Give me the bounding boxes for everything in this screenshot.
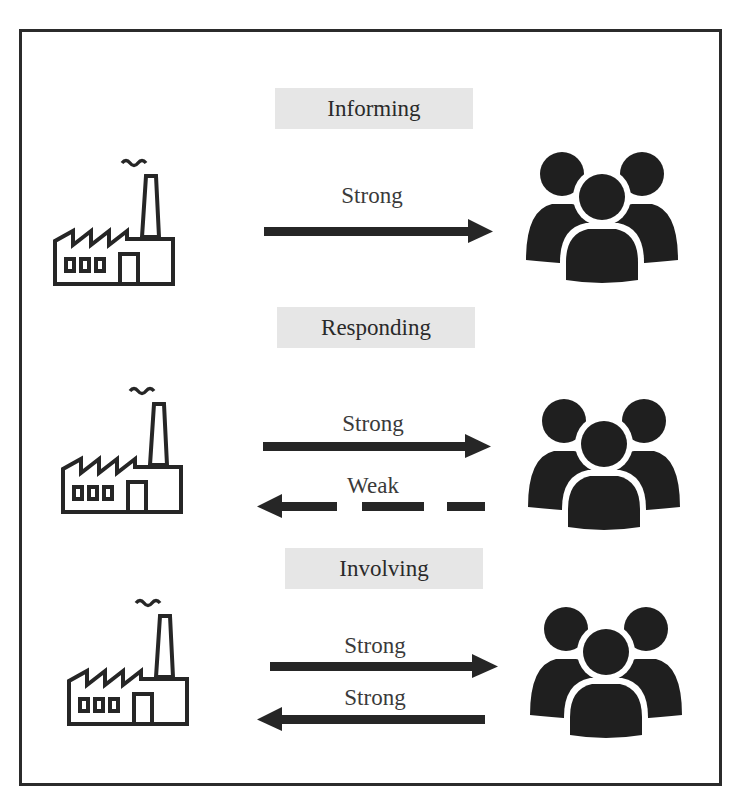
factory-icon — [53, 157, 177, 287]
arrow-right-solid — [263, 434, 493, 458]
arrow-right-solid — [264, 219, 494, 243]
factory-icon — [61, 385, 185, 515]
factory-icon — [67, 597, 191, 727]
arrow-left-solid — [257, 707, 487, 731]
section-title-informing: Informing — [275, 88, 473, 129]
section-title-involving: Involving — [285, 548, 483, 589]
section-title-responding: Responding — [277, 307, 475, 348]
people-group-icon — [528, 397, 680, 531]
people-group-icon — [530, 605, 682, 739]
arrow-label: Strong — [292, 183, 452, 209]
arrow-right-solid — [270, 654, 500, 678]
people-group-icon — [526, 150, 678, 284]
arrow-left-dashed — [257, 494, 487, 518]
